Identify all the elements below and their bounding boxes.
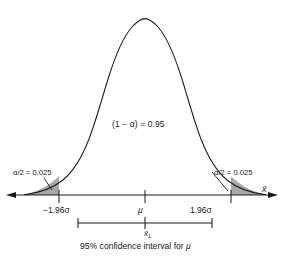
- x-axis-label: x̄: [262, 185, 267, 194]
- confidence-interval-diagram: (1 − α) = 0.95 α/2 = 0.025 α/2 = 0.025 −…: [0, 0, 290, 257]
- caption-text: 95% confidence interval for: [80, 241, 184, 251]
- figure-caption: 95% confidence interval for μ: [80, 242, 191, 251]
- mean-tick-label: μ: [138, 206, 143, 215]
- lower-bound-tick-label: −1.96σ: [43, 206, 70, 215]
- axis-arrow-right: [268, 192, 278, 198]
- sample-mean-label: x̄1: [144, 230, 151, 238]
- sample-mean-subscript: 1: [148, 233, 151, 239]
- right-tail-probability-label: α/2 = 0.025: [214, 169, 252, 177]
- upper-bound-tick-label: 1.96σ: [190, 206, 212, 215]
- caption-mu-symbol: μ: [186, 241, 191, 251]
- left-tail-probability-label: α/2 = 0.025: [13, 169, 51, 177]
- confidence-level-label: (1 − α) = 0.95: [112, 120, 165, 129]
- axis-arrow-left: [6, 192, 16, 198]
